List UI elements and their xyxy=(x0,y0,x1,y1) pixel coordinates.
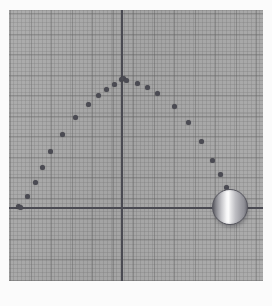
trajectory-point xyxy=(172,104,177,109)
trajectory-point xyxy=(25,194,30,199)
trajectory-point xyxy=(135,81,140,86)
y-axis xyxy=(121,10,123,281)
trajectory-point xyxy=(155,91,160,96)
projectile-sphere[interactable] xyxy=(212,189,248,225)
trajectory-point xyxy=(48,149,53,154)
trajectory-point xyxy=(60,132,65,137)
plot-canvas[interactable]: 0 Unit xyxy=(9,10,263,281)
trajectory-point xyxy=(40,165,45,170)
major-gridlines xyxy=(9,10,263,281)
projectile-plot-screenshot: 0 Unit xyxy=(0,0,272,306)
sphere-rim-shading xyxy=(212,189,248,225)
canvas-tint-overlay xyxy=(9,10,263,281)
trajectory-point xyxy=(112,82,117,87)
minor-gridlines xyxy=(9,10,263,281)
trajectory-point xyxy=(33,180,38,185)
trajectory-point xyxy=(96,93,101,98)
trajectory-point xyxy=(104,87,109,92)
trajectory-point xyxy=(210,158,215,163)
trajectory-point xyxy=(186,120,191,125)
trajectory-point xyxy=(145,85,150,90)
trajectory-point xyxy=(124,78,129,83)
trajectory-point xyxy=(18,205,23,210)
trajectory-point xyxy=(86,102,91,107)
trajectory-point xyxy=(199,139,204,144)
trajectory-point xyxy=(218,172,223,177)
trajectory-point xyxy=(73,115,78,120)
